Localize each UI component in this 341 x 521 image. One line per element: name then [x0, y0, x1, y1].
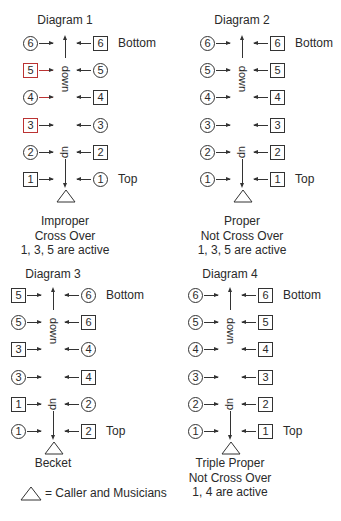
- dancer-left-circle-1: 1: [200, 172, 215, 187]
- caller-triangle-icon: [56, 189, 76, 203]
- legend-triangle-icon: [20, 486, 42, 501]
- arrow-right-icon: [27, 349, 41, 350]
- top-label: Top: [295, 172, 314, 186]
- up-arrow-icon: [65, 38, 66, 58]
- up-label: up: [48, 389, 60, 419]
- dancer-left-circle-2: 2: [23, 145, 38, 160]
- arrowhead-up-icon: [240, 35, 244, 40]
- arrow-left-icon: [77, 179, 91, 180]
- arrow-left-icon: [254, 152, 268, 153]
- arrow-left-icon: [242, 349, 256, 350]
- down-label: down: [48, 316, 60, 346]
- arrowhead-down-icon: [240, 183, 244, 188]
- arrow-left-icon: [242, 322, 256, 323]
- dancer-left-circle-4: 4: [23, 90, 38, 105]
- caption-line: Cross Over: [0, 229, 135, 244]
- arrow-left-icon: [254, 70, 268, 71]
- dancer-right-square-6: 6: [81, 315, 96, 330]
- bottom-label: Bottom: [118, 36, 156, 50]
- dancer-right-square-1: 1: [258, 424, 273, 439]
- arrow-right-icon: [216, 43, 230, 44]
- diagram-4: Diagram 4665544332211BottomTopdownupTrip…: [165, 254, 341, 514]
- dancer-right-square-5: 5: [258, 315, 273, 330]
- dancer-left-square-3: 3: [23, 118, 38, 133]
- arrow-right-icon: [216, 179, 230, 180]
- dancer-left-circle-4: 4: [200, 90, 215, 105]
- dancer-right-square-3: 3: [258, 370, 273, 385]
- arrow-left-icon: [65, 377, 79, 378]
- arrow-right-icon: [27, 431, 41, 432]
- dancer-left-square-5: 5: [11, 288, 26, 303]
- arrowhead-down-icon: [63, 183, 67, 188]
- arrow-right-icon: [39, 179, 53, 180]
- arrow-left-icon: [254, 125, 268, 126]
- up-label: up: [237, 137, 249, 167]
- dancer-right-square-1: 1: [270, 172, 285, 187]
- caption-line: Not Cross Over: [160, 471, 300, 486]
- dancer-right-circle-6: 6: [81, 288, 96, 303]
- arrow-right-icon: [216, 125, 230, 126]
- arrow-right-icon: [204, 322, 218, 323]
- arrow-left-icon: [65, 349, 79, 350]
- dancer-left-circle-1: 1: [188, 424, 203, 439]
- arrowhead-up-icon: [63, 35, 67, 40]
- arrow-right-icon: [39, 43, 53, 44]
- down-arrow-icon: [242, 159, 243, 184]
- dancer-right-square-6: 6: [270, 36, 285, 51]
- dancer-right-circle-4: 4: [81, 342, 96, 357]
- up-arrow-icon: [230, 290, 231, 310]
- caption-line: Not Cross Over: [172, 229, 312, 244]
- diagram-title: Diagram 4: [170, 267, 290, 281]
- dancer-right-circle-3: 3: [93, 118, 108, 133]
- top-label: Top: [106, 424, 125, 438]
- dancer-right-square-4: 4: [270, 90, 285, 105]
- arrow-left-icon: [77, 125, 91, 126]
- arrow-left-icon: [77, 43, 91, 44]
- legend-text: = Caller and Musicians: [45, 486, 167, 500]
- arrow-left-icon: [77, 70, 91, 71]
- arrow-right-icon: [39, 70, 53, 71]
- arrow-right-icon: [27, 404, 41, 405]
- dancer-right-circle-1: 1: [93, 172, 108, 187]
- caption-line: Triple Proper: [160, 456, 300, 471]
- down-label: down: [225, 316, 237, 346]
- top-label: Top: [283, 424, 302, 438]
- dancer-left-circle-1: 1: [11, 424, 26, 439]
- arrow-right-icon: [216, 152, 230, 153]
- arrowhead-down-icon: [228, 435, 232, 440]
- top-label: Top: [118, 172, 137, 186]
- diagram-title: Diagram 3: [0, 267, 113, 281]
- caption-line: Becket: [0, 456, 123, 471]
- caller-triangle-icon: [233, 189, 253, 203]
- dancer-left-circle-3: 3: [188, 370, 203, 385]
- diagram-caption: Becket: [0, 456, 123, 471]
- dancer-right-square-2: 2: [93, 145, 108, 160]
- bottom-label: Bottom: [295, 36, 333, 50]
- arrow-left-icon: [242, 431, 256, 432]
- arrow-right-icon: [204, 349, 218, 350]
- dancer-right-circle-2: 2: [81, 397, 96, 412]
- arrow-right-icon: [39, 125, 53, 126]
- diagram-title: Diagram 1: [5, 13, 125, 27]
- arrow-left-icon: [242, 295, 256, 296]
- dancer-left-square-1: 1: [11, 397, 26, 412]
- diagram-2: Diagram 2665544332211BottomTopdownupProp…: [177, 0, 341, 260]
- arrow-right-icon: [204, 431, 218, 432]
- dancer-right-square-5: 5: [270, 63, 285, 78]
- arrow-left-icon: [242, 404, 256, 405]
- dancer-right-square-4: 4: [93, 90, 108, 105]
- dancer-left-circle-6: 6: [200, 36, 215, 51]
- arrow-left-icon: [254, 43, 268, 44]
- arrow-right-icon: [27, 377, 41, 378]
- arrow-right-icon: [204, 404, 218, 405]
- arrow-right-icon: [39, 97, 53, 98]
- diagram-title: Diagram 2: [182, 13, 302, 27]
- dancer-right-square-4: 4: [81, 370, 96, 385]
- dancer-right-square-2: 2: [270, 145, 285, 160]
- down-arrow-icon: [65, 159, 66, 184]
- arrowhead-up-icon: [51, 287, 55, 292]
- dancer-left-square-1: 1: [23, 172, 38, 187]
- dancer-right-square-6: 6: [258, 288, 273, 303]
- dancer-left-circle-5: 5: [188, 315, 203, 330]
- up-arrow-icon: [53, 290, 54, 310]
